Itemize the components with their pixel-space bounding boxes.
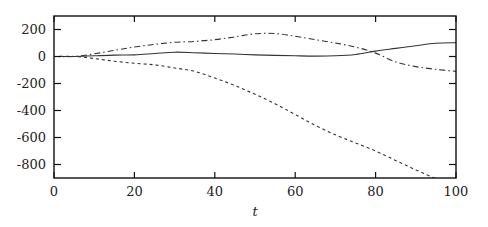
x-tick-label: 80 — [367, 184, 384, 199]
x-axis: 020406080100 — [50, 16, 469, 199]
line-chart: 020406080100 2000-200-400-600-800 t — [0, 0, 488, 227]
x-axis-label: t — [252, 204, 258, 219]
y-tick-label: -800 — [17, 157, 46, 172]
x-tick-label: 0 — [50, 184, 58, 199]
y-tick-label: -400 — [17, 103, 46, 118]
plot-frame — [54, 16, 456, 178]
series-dash-dot-line — [54, 33, 456, 71]
series-dashed-line — [54, 56, 456, 186]
series-solid-line — [54, 43, 456, 57]
x-tick-label: 40 — [207, 184, 224, 199]
plot-series — [54, 33, 456, 186]
y-tick-label: -600 — [17, 130, 46, 145]
y-tick-label: -200 — [17, 76, 46, 91]
x-tick-label: 60 — [287, 184, 304, 199]
x-tick-label: 100 — [444, 184, 469, 199]
x-tick-label: 20 — [126, 184, 143, 199]
y-tick-label: 0 — [38, 49, 46, 64]
y-tick-label: 200 — [21, 22, 46, 37]
y-axis: 2000-200-400-600-800 — [17, 22, 456, 172]
